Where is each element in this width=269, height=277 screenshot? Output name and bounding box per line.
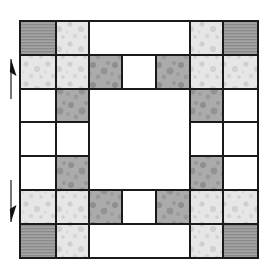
cell-r0c0: [20, 21, 56, 55]
cell-r6c6: [223, 224, 258, 258]
cell-r2c6: [223, 89, 258, 122]
cell-r1c6: [223, 55, 258, 89]
cell-r5c3: [122, 190, 156, 224]
cell-r1c0: [20, 55, 56, 89]
figure-root: [0, 0, 269, 277]
cell-r5c0: [20, 190, 56, 224]
cell-r3c5: [190, 122, 223, 156]
cell-r4c1: [56, 156, 89, 190]
cell-r0c2-span3: [89, 21, 190, 55]
cell-center-span: [89, 89, 190, 190]
cell-r3c0: [20, 122, 56, 156]
patch-cells-layer: [20, 21, 258, 258]
cell-r1c1: [56, 55, 89, 89]
cell-r4c0: [20, 156, 56, 190]
cell-r1c2: [89, 55, 122, 89]
cell-r5c1: [56, 190, 89, 224]
cell-r2c1: [56, 89, 89, 122]
cell-r1c4: [156, 55, 190, 89]
cell-r0c6: [223, 21, 258, 55]
arrow-up-marker: [10, 59, 17, 99]
cell-r5c2: [89, 190, 122, 224]
arrow-annotations-layer: [10, 59, 17, 222]
cell-r0c1: [56, 21, 89, 55]
cell-r3c1: [56, 122, 89, 156]
cell-r2c5: [190, 89, 223, 122]
cell-r6c1: [56, 224, 89, 258]
arrow-down-marker: [10, 180, 17, 222]
cell-r4c6: [223, 156, 258, 190]
cell-r1c5: [190, 55, 223, 89]
cell-r2c0: [20, 89, 56, 122]
cell-r6c2-span3: [89, 224, 190, 258]
cell-r6c0: [20, 224, 56, 258]
cell-r5c4: [156, 190, 190, 224]
cell-r4c5: [190, 156, 223, 190]
cell-r6c5: [190, 224, 223, 258]
cell-r0c5: [190, 21, 223, 55]
cell-r5c6: [223, 190, 258, 224]
patchwork-grid-diagram: [0, 0, 269, 277]
cell-r5c5: [190, 190, 223, 224]
cell-r1c3: [122, 55, 156, 89]
cell-r3c6: [223, 122, 258, 156]
